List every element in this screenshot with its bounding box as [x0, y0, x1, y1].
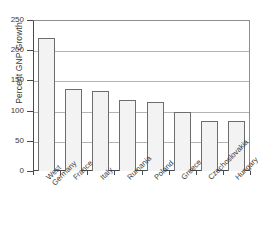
bar	[38, 38, 55, 171]
y-tick-label-100: 100	[0, 107, 24, 115]
bar	[92, 91, 109, 171]
y-axis-title: Percent GNP Growth	[14, 8, 24, 118]
y-tick-label-250: 250	[0, 16, 24, 24]
x-tick	[33, 171, 34, 175]
y-tick-label-50: 50	[0, 137, 24, 145]
bar	[174, 112, 191, 171]
bar	[119, 100, 136, 171]
bars-layer	[33, 20, 250, 171]
y-tick-label-150: 150	[0, 76, 24, 84]
y-tick-label-0: 0	[0, 167, 24, 175]
gnp-growth-bar-chart: Percent GNP Growth 050100150200250 West …	[0, 0, 260, 228]
y-tick-label-200: 200	[0, 46, 24, 54]
